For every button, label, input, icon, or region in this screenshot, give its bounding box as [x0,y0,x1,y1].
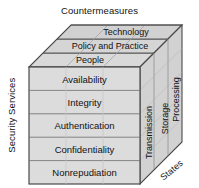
security-service-nonrepudiation: Nonrepudiation [29,168,140,178]
security-service-authentication: Authentication [29,121,140,131]
mccumber-cube-diagram: Countermeasures Security Services States… [0,0,199,188]
countermeasure-people: People [40,56,140,65]
security-service-confidentiality: Confidentiality [29,145,140,155]
countermeasure-technology: Technology [75,28,177,37]
state-processing: Processing [172,65,181,135]
axis-title-countermeasures: Countermeasures [0,6,199,16]
countermeasure-policy-and-practice: Policy and Practice [58,42,162,51]
state-storage: Storage [161,84,170,154]
state-transmission: Transmission [145,98,154,168]
security-service-integrity: Integrity [29,98,140,108]
axis-title-security-services: Security Services [7,81,17,153]
security-service-availability: Availability [29,75,140,85]
